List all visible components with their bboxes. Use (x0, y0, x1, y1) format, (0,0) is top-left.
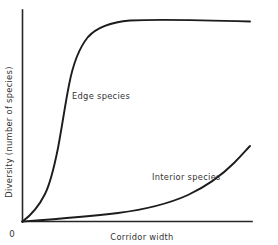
origin-label: 0 (9, 229, 14, 239)
y-axis-title: Diversity (number of species) (4, 66, 14, 197)
species-diversity-chart: Diversity (number of species) Corridor w… (0, 0, 278, 245)
chart-background (0, 0, 278, 245)
x-axis-title: Corridor width (110, 232, 173, 242)
interior-species-label: Interior species (152, 172, 221, 182)
edge-species-label: Edge species (72, 91, 130, 101)
chart-figure: Diversity (number of species) Corridor w… (0, 0, 278, 245)
